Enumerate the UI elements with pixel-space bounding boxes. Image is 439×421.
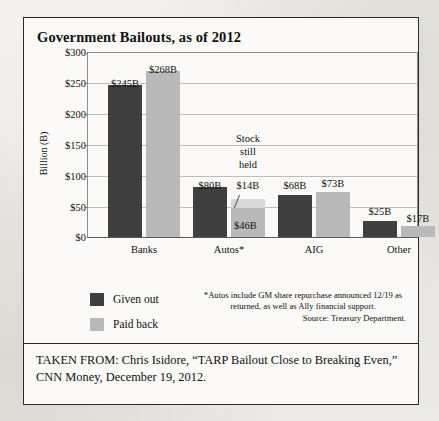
figure-title: Government Bailouts, as of 2012 bbox=[37, 29, 241, 46]
y-tick-250: $250 bbox=[42, 79, 86, 90]
bar-other-paid-back[interactable] bbox=[401, 226, 435, 237]
bar-label-banks-given-out: $245B bbox=[96, 79, 154, 90]
bar-aig-given-out[interactable] bbox=[278, 195, 312, 237]
bar-label-autos-paid-back: $46B bbox=[234, 221, 257, 232]
bar-autos-given-out[interactable] bbox=[193, 187, 227, 237]
footnote-line-1: *Autos include GM share repurchase annou… bbox=[204, 290, 371, 300]
bar-label-other-paid-back: $17B bbox=[389, 214, 439, 225]
bar-aig-paid-back[interactable] bbox=[316, 192, 350, 237]
x-label-other: Other bbox=[360, 244, 438, 255]
bar-banks-given-out[interactable] bbox=[108, 85, 142, 237]
bar-banks-paid-back[interactable] bbox=[146, 71, 180, 237]
tick-250 bbox=[84, 83, 88, 84]
bar-label-banks-paid-back: $268B bbox=[134, 65, 192, 76]
tick-200 bbox=[84, 114, 88, 115]
y-tick-300: $300 bbox=[42, 48, 86, 59]
x-label-aig: AIG bbox=[275, 244, 353, 255]
figure-container: Government Bailouts, as of 2012 Billion … bbox=[23, 17, 419, 405]
source-caption: TAKEN FROM: Chris Isidore, “TARP Bailout… bbox=[36, 352, 408, 385]
y-tick-100: $100 bbox=[42, 172, 86, 183]
x-label-banks: Banks bbox=[105, 244, 183, 255]
legend-item-given-out[interactable]: Given out bbox=[90, 289, 210, 309]
annotation-stock: Stock bbox=[220, 133, 276, 145]
legend-item-paid-back[interactable]: Paid back bbox=[90, 314, 210, 334]
y-tick-200: $200 bbox=[42, 110, 86, 121]
bar-chart: Billion (B) $300 $250 $200 $150 $100 $50… bbox=[24, 52, 418, 278]
legend-swatch-paid-back bbox=[90, 318, 104, 331]
y-tick-50: $50 bbox=[42, 203, 86, 214]
bar-group-other: $25B $17B bbox=[361, 53, 439, 237]
y-tick-0: $0 bbox=[42, 233, 86, 244]
tick-50 bbox=[84, 207, 88, 208]
footnote-source: Source: Treasury Department. bbox=[200, 313, 406, 324]
tick-300 bbox=[84, 53, 88, 54]
y-axis-ticks: $300 $250 $200 $150 $100 $50 $0 bbox=[38, 52, 86, 278]
bar-group-aig: $68B $73B bbox=[276, 53, 354, 237]
chart-footnote: *Autos include GM share repurchase annou… bbox=[200, 290, 406, 324]
bar-group-banks: $245B $268B bbox=[106, 53, 184, 237]
legend-swatch-given-out bbox=[90, 293, 104, 306]
tick-100 bbox=[84, 176, 88, 177]
bar-label-aig-paid-back: $73B bbox=[304, 179, 362, 190]
bar-group-autos: $80B $14B $46B Stock still held bbox=[191, 53, 269, 237]
legend-label-paid-back: Paid back bbox=[113, 318, 158, 330]
x-label-autos: Autos* bbox=[190, 244, 268, 255]
y-tick-150: $150 bbox=[42, 141, 86, 152]
chart-legend: Given out Paid back bbox=[90, 289, 210, 339]
tick-150 bbox=[84, 145, 88, 146]
annotation-still: still bbox=[220, 146, 276, 158]
caption-divider bbox=[24, 343, 418, 344]
plot-area: $245B $268B $80B $14B $46B Stock still h… bbox=[87, 52, 418, 238]
annotation-held: held bbox=[220, 159, 276, 171]
legend-label-given-out: Given out bbox=[113, 293, 159, 305]
